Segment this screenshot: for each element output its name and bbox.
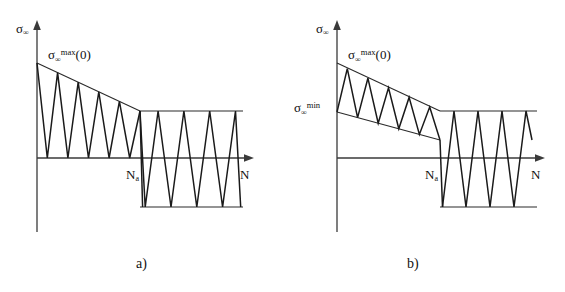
stress-max-label-b: σ∞max(0) [348, 48, 391, 64]
cyclic-load-trace-post-na-b [443, 111, 533, 207]
panel-b: σ∞ σ∞max(0) σ∞min Na N b) [282, 0, 565, 292]
x-axis-a [37, 154, 254, 162]
x-axis-label-a: N [240, 168, 249, 181]
x-axis-label-b: N [531, 168, 540, 181]
panel-a-plot [0, 0, 283, 292]
lower-envelope-b [337, 112, 440, 140]
y-axis-a [33, 20, 41, 232]
cyclic-load-trace-post-na-a [140, 111, 241, 207]
panel-b-plot [282, 0, 565, 292]
stress-max-label-a: σ∞max(0) [48, 48, 91, 64]
transition-drop-b [440, 140, 443, 207]
panel-a: σ∞ σ∞max(0) Na N a) [0, 0, 283, 292]
cyclic-load-trace-pre-na-a [37, 63, 140, 158]
na-label-a: Na [126, 168, 139, 183]
y-axis-label-b: σ∞ [316, 22, 329, 37]
y-axis-b [333, 20, 341, 232]
panel-caption-a: a) [136, 256, 147, 272]
panel-caption-b: b) [407, 256, 419, 272]
stress-min-label-b: σ∞min [294, 101, 320, 117]
na-label-b: Na [425, 168, 438, 183]
y-axis-label-a: σ∞ [16, 22, 29, 37]
upper-envelope-a [37, 63, 140, 111]
